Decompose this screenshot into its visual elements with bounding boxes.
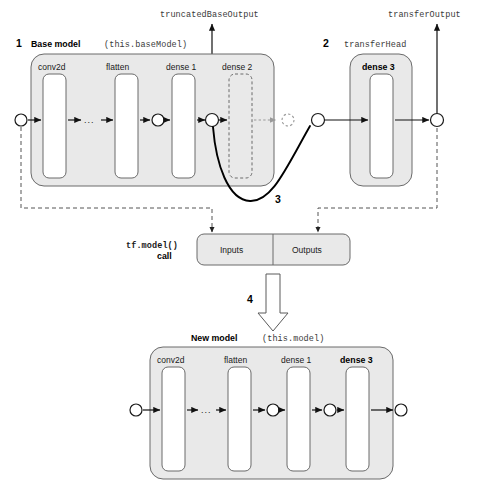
transfer-head-input-node: [312, 114, 325, 127]
new-layer-dense1: [287, 367, 310, 471]
step-2-number: 2: [323, 37, 329, 49]
new-model-varname: (this.model): [262, 334, 324, 344]
truncated-base-output-label: truncatedBaseOutput: [160, 10, 259, 20]
new-node-dense1-dense3: [324, 404, 336, 416]
base-ghost-output-node: [282, 114, 294, 126]
new-layer-dense3: [346, 367, 369, 471]
new-layer-label-flatten: flatten: [224, 355, 247, 365]
diagram-canvas: truncatedBaseOutput transferOutput 1 2 B…: [0, 0, 479, 495]
step-4-number: 4: [247, 293, 253, 305]
base-layer-conv2d: [43, 74, 66, 178]
new-layer-conv2d: [162, 367, 185, 471]
new-model-ellipsis: ...: [201, 405, 212, 415]
transfer-head-layer-dense3: [370, 74, 393, 178]
transfer-output-label: transferOutput: [388, 10, 461, 20]
transfer-head-layer-label-dense3: dense 3: [362, 62, 395, 72]
new-layer-flatten: [228, 367, 251, 471]
transfer-head-title: transferHead: [344, 40, 406, 50]
base-node-flatten-dense1: [152, 114, 164, 126]
base-input-node: [15, 114, 27, 126]
base-truncation-node: [206, 114, 219, 127]
new-layer-label-dense1: dense 1: [281, 355, 312, 365]
step-3-number: 3: [275, 193, 281, 205]
base-model-varname: (this.baseModel): [104, 40, 187, 50]
base-layer-dense2-removed: [229, 74, 252, 178]
base-layer-label-conv2d: conv2d: [38, 62, 66, 72]
new-model-input-node: [130, 404, 142, 416]
base-layer-label-flatten: flatten: [106, 62, 129, 72]
transfer-output-node: [431, 114, 444, 127]
inputs-label: Inputs: [220, 245, 243, 255]
base-layer-flatten: [115, 74, 138, 178]
base-model-title: Base model: [31, 39, 80, 49]
step-1-number: 1: [16, 37, 22, 49]
base-layer-dense1: [172, 74, 195, 178]
base-ellipsis: ...: [84, 115, 95, 125]
base-layer-label-dense2: dense 2: [222, 62, 253, 72]
outputs-label: Outputs: [292, 245, 322, 255]
new-node-flatten-dense1: [267, 404, 279, 416]
new-layer-label-dense3: dense 3: [340, 355, 373, 365]
new-model-output-node: [395, 404, 407, 416]
new-layer-label-conv2d: conv2d: [157, 355, 185, 365]
tf-model-call-caption-line2: call: [157, 251, 172, 261]
step-4-block-arrow: [258, 274, 288, 331]
base-layer-label-dense1: dense 1: [166, 62, 197, 72]
new-model-title: New model: [191, 333, 237, 343]
tf-model-call-caption-line1: tf.model(): [126, 241, 178, 251]
